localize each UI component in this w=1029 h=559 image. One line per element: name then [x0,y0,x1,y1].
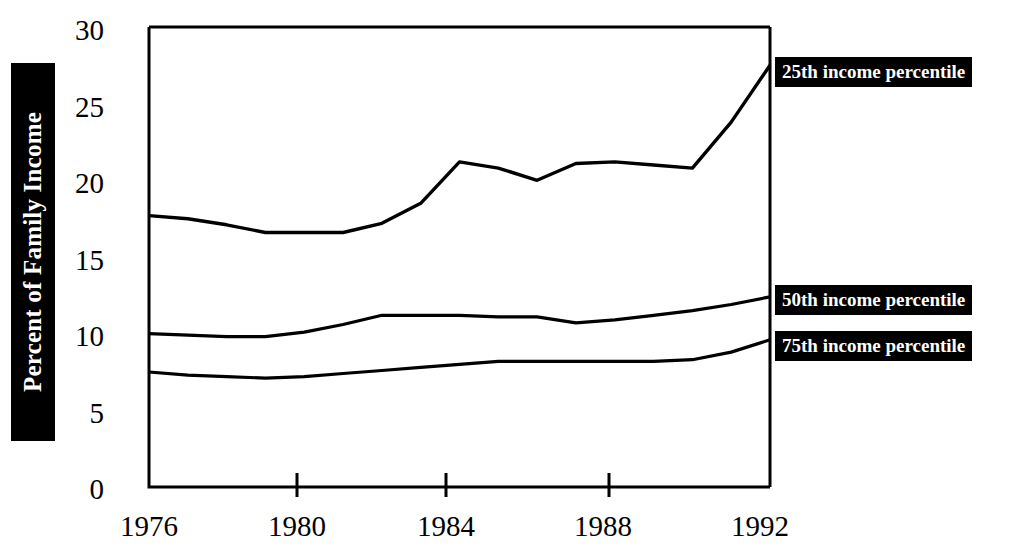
series-label-75th-percentile: 75th income percentile [775,331,972,361]
series-label-25th-percentile: 25th income percentile [775,57,972,87]
axis-frame [149,27,770,487]
series-line-50th-percentile [149,297,770,337]
chart-figure: Percent of Family Income 30 25 20 15 10 … [0,0,1029,559]
series-label-50th-percentile: 50th income percentile [775,285,972,315]
series-line-75th-percentile [149,340,770,378]
series-line-25th-percentile [149,65,770,232]
x-tick-marks [297,473,609,497]
